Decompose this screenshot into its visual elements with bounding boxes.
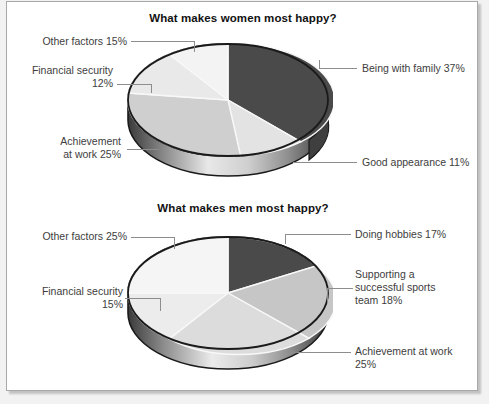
leader-men-hobbies-tick bbox=[285, 234, 286, 244]
leader-women-achievement bbox=[127, 149, 159, 150]
leader-women-other-tick bbox=[194, 41, 195, 52]
leader-men-sports bbox=[327, 288, 353, 289]
label-women-good-appearance: Good appearance 11% bbox=[362, 156, 469, 169]
leader-women-financial-tick bbox=[151, 84, 152, 93]
leader-men-financial bbox=[125, 298, 160, 299]
leader-women-appearance bbox=[293, 162, 357, 163]
chart-women-pie bbox=[123, 28, 333, 188]
leader-men-financial-tick bbox=[160, 298, 161, 311]
chart-men-pie bbox=[123, 221, 333, 381]
label-men-financial-security: Financial security 15% bbox=[19, 285, 123, 311]
label-women-other-factors: Other factors 15% bbox=[13, 35, 127, 48]
leader-men-other-tick bbox=[174, 237, 175, 249]
screenshot-stage: What makes women most happy? bbox=[0, 0, 489, 404]
label-women-being-with-family: Being with family 37% bbox=[362, 62, 465, 75]
leader-men-sports-tick bbox=[327, 288, 328, 303]
label-men-doing-hobbies: Doing hobbies 17% bbox=[355, 228, 446, 241]
chart-men-title: What makes men most happy? bbox=[7, 202, 479, 214]
label-women-achievement-at-work: Achievement at work 25% bbox=[25, 135, 121, 161]
leader-women-family bbox=[319, 68, 357, 69]
label-men-other-factors: Other factors 25% bbox=[13, 230, 127, 243]
label-men-supporting-sports-team: Supporting a successful sports team 18% bbox=[355, 268, 467, 307]
label-women-financial-security: Financial security 12% bbox=[15, 64, 113, 90]
chart-women-title: What makes women most happy? bbox=[7, 12, 479, 24]
leader-men-achievement bbox=[289, 352, 351, 353]
chart-men: What makes men most happy? bbox=[7, 197, 479, 392]
leader-women-financial bbox=[117, 84, 151, 85]
label-men-achievement-at-work: Achievement at work 25% bbox=[355, 345, 473, 371]
leader-women-other bbox=[131, 41, 194, 42]
leader-men-other bbox=[131, 237, 174, 238]
chart-women: What makes women most happy? bbox=[7, 2, 479, 197]
leader-women-family-tick bbox=[319, 60, 320, 69]
chart-card: What makes women most happy? bbox=[6, 1, 478, 391]
leader-men-hobbies bbox=[285, 234, 351, 235]
